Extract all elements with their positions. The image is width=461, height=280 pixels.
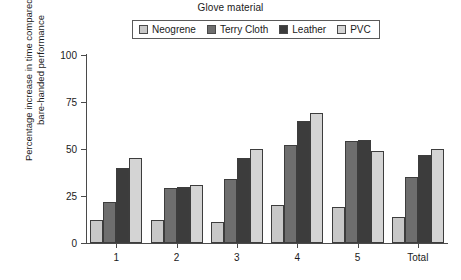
bar[interactable] [190, 185, 203, 243]
x-axis-tick-mark [418, 243, 419, 248]
legend-item[interactable]: Terry Cloth [207, 25, 268, 35]
bar[interactable] [392, 217, 405, 243]
bar[interactable] [345, 141, 358, 243]
bar[interactable] [151, 220, 164, 243]
plot-area: 0255075100 [86, 55, 448, 243]
bar[interactable] [358, 140, 371, 243]
y-axis-title: Percentage increase in time compared wit… [23, 0, 47, 165]
legend-item-label: PVC [350, 25, 371, 35]
y-axis-tick-label: 0 [71, 238, 77, 249]
chart-legend: NeogreneTerry ClothLeatherPVC [132, 20, 380, 39]
bar[interactable] [332, 207, 345, 243]
bar[interactable] [418, 155, 431, 243]
bar-group [211, 55, 263, 243]
bar-group [332, 55, 384, 243]
bar[interactable] [224, 179, 237, 243]
legend-swatch-icon [139, 25, 148, 34]
bar[interactable] [271, 205, 284, 243]
x-axis-line [86, 243, 448, 244]
bar[interactable] [90, 220, 103, 243]
legend-item-label: Leather [292, 25, 326, 35]
bar[interactable] [164, 188, 177, 243]
bar[interactable] [177, 187, 190, 243]
x-axis-tick-label: 3 [207, 252, 267, 263]
legend-item-label: Terry Cloth [220, 25, 268, 35]
x-axis-tick-mark [116, 243, 117, 248]
legend-title: Glove material [0, 2, 461, 13]
x-axis-tick-mark [237, 243, 238, 248]
x-axis-tick-mark [297, 243, 298, 248]
x-axis-tick-label: Total [388, 252, 448, 263]
bar-group [90, 55, 142, 243]
y-axis-tick-label: 75 [66, 97, 77, 108]
y-axis-tick-mark [81, 243, 86, 244]
y-axis-tick-mark [81, 102, 86, 103]
bar[interactable] [237, 158, 250, 243]
x-axis-tick-label: 1 [86, 252, 146, 263]
bar[interactable] [405, 177, 418, 243]
bar-group [271, 55, 323, 243]
bar[interactable] [284, 145, 297, 243]
bar[interactable] [250, 149, 263, 243]
x-axis-tick-mark [358, 243, 359, 248]
y-axis-tick-label: 25 [66, 191, 77, 202]
legend-swatch-icon [207, 25, 216, 34]
y-axis-tick-label: 100 [60, 50, 77, 61]
x-axis-tick-label: 5 [328, 252, 388, 263]
y-axis-title-wrap: Percentage increase in time compared wit… [20, 0, 50, 165]
bar[interactable] [211, 222, 224, 243]
y-axis-tick-label: 50 [66, 144, 77, 155]
bar-group [392, 55, 444, 243]
legend-item[interactable]: PVC [337, 25, 371, 35]
y-axis-tick-mark [81, 149, 86, 150]
bar-group [151, 55, 203, 243]
bar[interactable] [371, 151, 384, 243]
legend-swatch-icon [337, 25, 346, 34]
y-axis-tick-mark [81, 55, 86, 56]
x-axis-tick-label: 2 [147, 252, 207, 263]
bar[interactable] [103, 202, 116, 243]
x-axis-tick-mark [177, 243, 178, 248]
y-axis-tick-mark [81, 196, 86, 197]
legend-item-label: Neogrene [152, 25, 196, 35]
bar[interactable] [310, 113, 323, 243]
x-axis-tick-label: 4 [267, 252, 327, 263]
legend-item[interactable]: Leather [279, 25, 326, 35]
bar[interactable] [129, 158, 142, 243]
bar[interactable] [297, 121, 310, 243]
bar[interactable] [431, 149, 444, 243]
bar[interactable] [116, 168, 129, 243]
legend-item[interactable]: Neogrene [139, 25, 196, 35]
bar-chart-figure: Glove material NeogreneTerry ClothLeathe… [0, 0, 461, 280]
legend-swatch-icon [279, 25, 288, 34]
